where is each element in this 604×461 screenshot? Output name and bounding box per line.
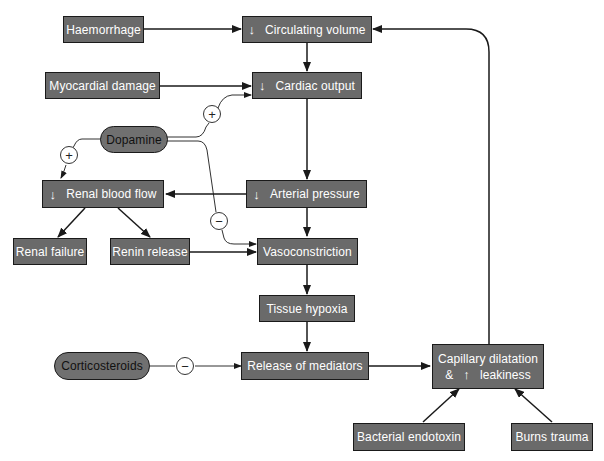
leakiness-text: leakiness (480, 368, 531, 382)
node-vasoconstriction: Vasoconstriction (257, 238, 358, 265)
node-renin-release: Renin release (110, 238, 190, 265)
node-cardiac-output: ↓ Cardiac output (252, 72, 362, 99)
decrease-arrow-icon: ↓ (259, 78, 266, 93)
node-label: Haemorrhage (66, 23, 140, 37)
increase-arrow-icon: ↑ (463, 367, 470, 383)
node-label: Dopamine (106, 133, 162, 147)
node-dopamine: Dopamine (100, 126, 168, 153)
node-label: Cardiac output (276, 79, 355, 93)
node-label-line1: Capillary dilatation (438, 351, 538, 367)
plus-sign-icon: + (60, 146, 78, 164)
node-label-line2: &↑leakiness (445, 367, 531, 383)
node-burns-trauma: Burns trauma (511, 423, 593, 451)
node-bacterial-endotoxin: Bacterial endotoxin (353, 423, 465, 451)
node-label: Vasoconstriction (263, 245, 352, 259)
decrease-arrow-icon: ↓ (248, 22, 255, 37)
node-tissue-hypoxia: Tissue hypoxia (259, 295, 355, 322)
node-label: Renal failure (16, 245, 85, 259)
plus-sign-icon: + (203, 105, 221, 123)
node-label: Burns trauma (515, 430, 588, 444)
decrease-arrow-icon: ↓ (50, 187, 57, 202)
node-label: Release of mediators (247, 359, 362, 373)
node-corticosteroids: Corticosteroids (54, 352, 150, 380)
minus-sign-icon: − (210, 212, 228, 230)
node-label: Tissue hypoxia (267, 302, 348, 316)
node-label: Myocardial damage (49, 79, 155, 93)
node-arterial-pressure: ↓ Arterial pressure (246, 180, 367, 208)
connector-lines (0, 0, 604, 461)
node-label: Bacterial endotoxin (357, 430, 461, 444)
node-release-of-mediators: Release of mediators (241, 352, 369, 380)
node-capillary-dilatation: Capillary dilatation &↑leakiness (432, 344, 544, 389)
node-label: Corticosteroids (61, 359, 143, 373)
decrease-arrow-icon: ↓ (253, 187, 260, 202)
node-label: Arterial pressure (270, 187, 360, 201)
node-circulating-volume: ↓ Circulating volume (242, 16, 372, 43)
node-renal-blood-flow: ↓ Renal blood flow (42, 180, 164, 208)
node-label: Renin release (112, 245, 187, 259)
node-haemorrhage: Haemorrhage (63, 16, 144, 43)
node-label: Circulating volume (265, 23, 366, 37)
node-label: Renal blood flow (66, 187, 156, 201)
node-myocardial-damage: Myocardial damage (45, 72, 160, 99)
minus-sign-icon: − (176, 357, 194, 375)
node-renal-failure: Renal failure (13, 238, 87, 265)
ampersand: & (445, 368, 453, 382)
